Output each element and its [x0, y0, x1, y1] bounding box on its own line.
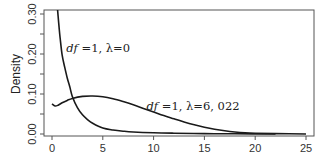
y-tick-label: 0.00: [26, 123, 38, 144]
annotation-params: =1, λ=6, 022: [158, 99, 239, 113]
series-central-line: [58, 10, 276, 134]
x-ticks: 0510152025: [49, 136, 312, 154]
x-tick-label: 20: [249, 142, 261, 154]
annotation-noncentral: df =1, λ=6, 022: [146, 99, 239, 113]
y-ticks: 0.000.100.200.30: [26, 3, 44, 144]
x-tick-label: 15: [198, 142, 210, 154]
y-tick-label: 0.10: [26, 83, 38, 104]
y-tick-label: 0.20: [26, 43, 38, 64]
series-group: [52, 10, 306, 134]
annotations: df =1, λ=0df =1, λ=6, 022: [66, 41, 239, 113]
x-tick-label: 25: [300, 142, 312, 154]
x-tick-label: 5: [100, 142, 106, 154]
x-tick-label: 10: [147, 142, 159, 154]
annotation-params: =1, λ=0: [78, 41, 130, 55]
chart: Density 0.000.100.200.30 0510152025 df =…: [0, 0, 320, 165]
y-axis-label: Density: [9, 54, 23, 94]
y-tick-label: 0.30: [26, 3, 38, 24]
x-tick-label: 0: [49, 142, 55, 154]
annotation-central: df =1, λ=0: [66, 41, 130, 55]
